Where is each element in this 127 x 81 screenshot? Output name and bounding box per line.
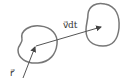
position-vector-label: r⃗ [10, 68, 14, 78]
displacement-vector-label: v⃗dt [63, 20, 77, 30]
displaced-region-blob [86, 3, 119, 46]
diagram-canvas [0, 0, 127, 81]
initial-region-blob [18, 26, 57, 63]
